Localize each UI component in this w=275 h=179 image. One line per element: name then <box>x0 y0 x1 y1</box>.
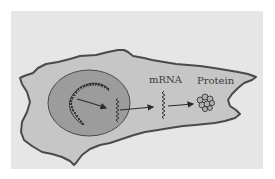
mrna-label: mRNA <box>149 74 183 85</box>
cell-diagram: mRNA Protein <box>0 0 275 179</box>
protein-label: Protein <box>197 75 235 86</box>
